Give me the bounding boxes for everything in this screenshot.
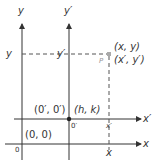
x-prime-tick-label: x′ — [106, 123, 112, 130]
y-prime-axis-label: y′ — [64, 6, 72, 16]
hk-label: (h, k) — [74, 105, 100, 115]
point-p-label: P — [99, 58, 103, 65]
origin-prime-coords-label: (0′, 0′) — [34, 105, 65, 115]
y-tick-label: y — [6, 49, 12, 59]
point-xy-label: (x, y) — [114, 42, 140, 52]
origin-prime-dot — [67, 117, 71, 121]
x-tick-label: x — [106, 148, 112, 158]
origin-prime-label: 0′ — [71, 123, 77, 130]
coordinate-diagram — [0, 0, 153, 162]
point-prime-label: (x′, y′) — [114, 55, 145, 65]
origin-coords-label: (0, 0) — [25, 130, 52, 140]
x-prime-axis-label: x′ — [143, 114, 151, 124]
y-axis-label: y — [18, 6, 24, 16]
origin-label: 0 — [15, 147, 19, 154]
x-axis-label: x — [143, 139, 149, 149]
point-p — [107, 52, 111, 56]
y-prime-tick-label: y′ — [57, 49, 65, 59]
